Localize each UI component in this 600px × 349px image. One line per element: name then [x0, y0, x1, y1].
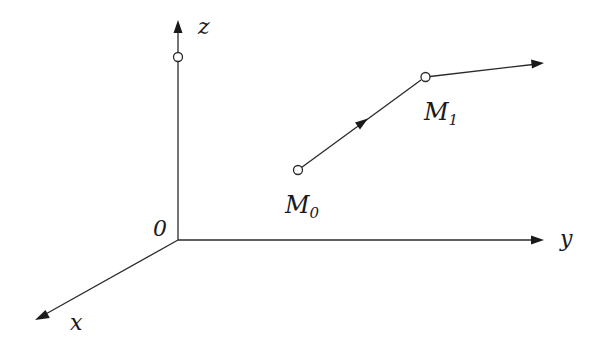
segment-m1-continuation [430, 65, 533, 77]
direction-arrow-icon [355, 119, 368, 130]
z-axis-arrowhead-icon [174, 20, 183, 33]
point-m1-marker [421, 73, 430, 82]
point-m0-label: M0 [284, 191, 320, 222]
point-m0: M0 [284, 166, 320, 223]
y-axis-arrowhead-icon [531, 236, 544, 245]
x-axis-label: x [70, 310, 83, 335]
x-axis-arrowhead-icon [35, 310, 50, 320]
trajectory-arrowhead-icon [531, 60, 544, 69]
point-m0-marker [294, 166, 303, 175]
x-axis: x [35, 240, 178, 335]
z-axis-label: z [197, 14, 210, 39]
y-axis: y [178, 226, 573, 251]
point-m1-label: M1 [423, 98, 458, 129]
y-axis-label: y [559, 226, 573, 251]
z-axis: z [174, 14, 211, 240]
point-m1: M1 [421, 73, 458, 130]
origin-label: 0 [153, 216, 167, 241]
coordinate-diagram: z y x 0 M0 M1 [0, 0, 600, 349]
z-axis-point [174, 53, 183, 62]
